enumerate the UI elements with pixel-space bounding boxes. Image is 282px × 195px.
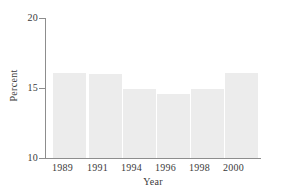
bar-1994 [123,89,156,158]
plot-area [45,18,261,158]
bar-1996 [157,94,190,158]
bar-chart: 20 15 10 Percent 1989 1991 1994 1996 199… [0,0,282,195]
bar-2000 [225,73,258,158]
bar-1998 [191,89,224,158]
bar-1991 [89,74,122,158]
y-axis-tick-label-20: 20 [16,13,38,23]
bar-1989 [53,73,86,158]
x-axis-tick-label-2000: 2000 [208,162,259,173]
y-axis-title: Percent [8,51,19,121]
y-axis-tick-label-15: 15 [16,83,38,93]
y-axis-tick-label-10: 10 [16,153,38,163]
x-axis-title: Year [45,176,261,187]
x-axis-line [45,158,261,159]
